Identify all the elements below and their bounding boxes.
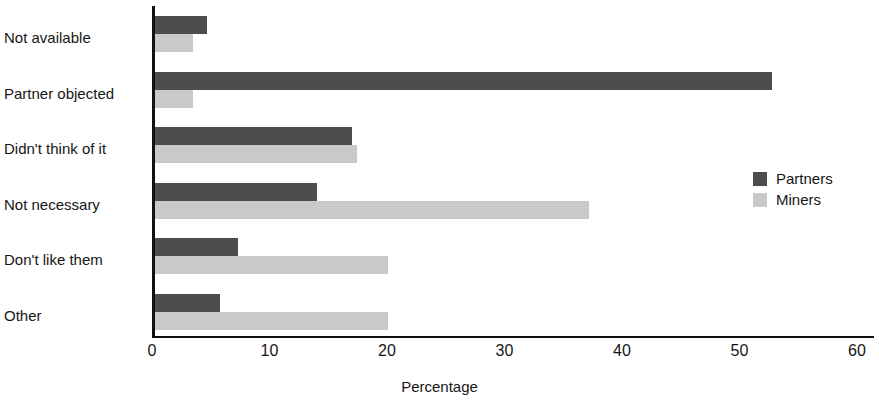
category-label: Don't like them xyxy=(4,252,138,268)
x-tick-label: 50 xyxy=(731,342,749,360)
x-axis-line xyxy=(152,336,874,338)
category-axis-labels: Not availablePartner objectedDidn't thin… xyxy=(0,0,146,338)
bar-miners xyxy=(155,90,193,108)
bar-miners xyxy=(155,34,193,52)
category-label: Didn't think of it xyxy=(4,141,138,157)
x-tick-label: 30 xyxy=(496,342,514,360)
category-label: Not available xyxy=(4,30,138,46)
x-tick-label: 20 xyxy=(378,342,396,360)
bar-partners xyxy=(155,72,772,90)
category-label: Not necessary xyxy=(4,197,138,213)
bar-partners xyxy=(155,294,220,312)
bar-partners xyxy=(155,238,238,256)
category-label: Partner objected xyxy=(4,86,138,102)
legend-label: Miners xyxy=(776,191,821,208)
bar-partners xyxy=(155,183,317,201)
chart-legend: PartnersMiners xyxy=(753,168,833,210)
bar-miners xyxy=(155,145,357,163)
x-tick-label: 60 xyxy=(848,342,866,360)
y-axis-line xyxy=(152,6,155,338)
legend-swatch-partners xyxy=(753,172,767,186)
x-tick-label: 40 xyxy=(613,342,631,360)
bar-miners xyxy=(155,256,388,274)
bar-miners xyxy=(155,312,388,330)
bar-chart: Not availablePartner objectedDidn't thin… xyxy=(0,0,879,410)
legend-swatch-miners xyxy=(753,193,767,207)
legend-item: Miners xyxy=(753,189,833,210)
bar-partners xyxy=(155,127,352,145)
x-axis-title: Percentage xyxy=(0,378,879,395)
x-tick-label: 0 xyxy=(148,342,157,360)
legend-item: Partners xyxy=(753,168,833,189)
bar-partners xyxy=(155,16,207,34)
bar-miners xyxy=(155,201,589,219)
x-tick-label: 10 xyxy=(261,342,279,360)
legend-label: Partners xyxy=(776,170,833,187)
category-label: Other xyxy=(4,308,138,324)
